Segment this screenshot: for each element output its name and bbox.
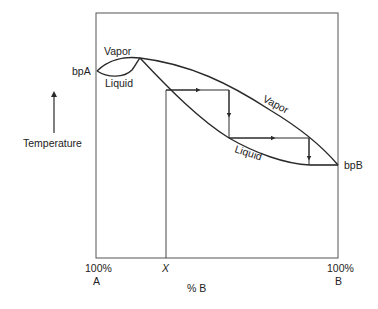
label-temperature: Temperature [23,137,82,149]
label-liquid-left: Liquid [105,77,133,89]
label-b: B [335,275,342,287]
phase-diagram: Vapor Liquid bpA bpB Vapor Liquid Temper… [0,0,378,309]
label-bpa: bpA [72,65,91,77]
plot-frame [96,13,338,258]
label-percent-b: % B [187,282,206,294]
label-bpb: bpB [344,159,363,171]
label-100-b: 100% [327,262,354,274]
label-vapor-left: Vapor [104,45,132,57]
label-a: A [93,275,100,287]
label-vapor-right: Vapor [261,92,291,116]
liquid-curve-left [97,58,140,76]
label-x: X [161,262,170,274]
label-liquid-right: Liquid [233,142,264,162]
label-100-a: 100% [85,262,112,274]
